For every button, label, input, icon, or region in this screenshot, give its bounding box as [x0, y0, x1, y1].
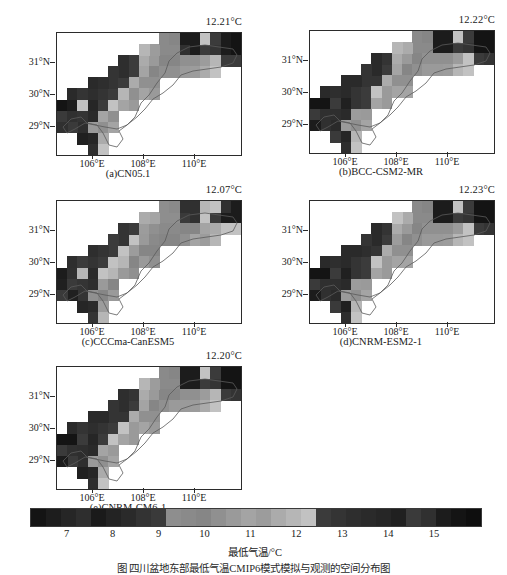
raster-cell [231, 223, 242, 235]
raster-cell [433, 31, 444, 43]
raster-cell [108, 245, 119, 257]
raster-cell [108, 88, 119, 100]
temperature-raster-c [57, 201, 241, 323]
y-axis-label-29N: 29°N [10, 288, 50, 299]
raster-cell [210, 367, 221, 379]
raster-cell [129, 245, 140, 257]
colorbar-tick-9: 9 [156, 528, 161, 539]
colorbar-segment [136, 509, 151, 526]
raster-cell [351, 301, 362, 313]
raster-cell [310, 290, 321, 302]
raster-cell [77, 279, 88, 291]
raster-cell [382, 53, 393, 65]
raster-cell [443, 223, 454, 235]
raster-cell [108, 66, 119, 78]
raster-cell [392, 256, 403, 268]
colorbar-segment [301, 509, 316, 526]
colorbar-axis-title: 最低气温/°C [30, 544, 480, 559]
y-axis-tick [303, 230, 308, 231]
raster-cell [108, 122, 119, 134]
raster-cell [129, 77, 140, 89]
raster-cell [341, 142, 352, 154]
raster-cell [129, 400, 140, 412]
raster-cell [422, 201, 433, 213]
colorbar-segment [286, 509, 301, 526]
panel-caption-a: (a)CN05.1 [8, 168, 248, 179]
raster-cell [402, 223, 413, 235]
raster-cell [351, 109, 362, 121]
raster-cell [77, 133, 88, 145]
raster-cell [98, 111, 109, 123]
y-axis-tick [303, 262, 308, 263]
raster-cell [159, 389, 170, 401]
raster-cell [330, 109, 341, 121]
raster-cell [474, 42, 485, 54]
raster-cell [412, 201, 423, 213]
colorbar-segment [31, 509, 46, 526]
raster-cell [351, 268, 362, 280]
raster-cell [371, 75, 382, 87]
raster-cell [210, 55, 221, 67]
x-axis-tick [345, 322, 346, 327]
raster-cell [320, 290, 331, 302]
raster-cell [433, 234, 444, 246]
raster-cell [221, 212, 232, 224]
raster-cell [351, 279, 362, 291]
raster-cell [392, 212, 403, 224]
raster-cell [463, 212, 474, 224]
raster-cell [149, 389, 160, 401]
raster-cell [77, 111, 88, 123]
raster-cell [210, 66, 221, 78]
x-axis-tick [447, 152, 448, 157]
raster-cell [371, 98, 382, 110]
raster-cell [310, 109, 321, 121]
y-axis-label-29N: 29°N [263, 288, 303, 299]
raster-cell [169, 389, 180, 401]
raster-cell [118, 100, 129, 112]
raster-cell [88, 467, 99, 479]
raster-cell [231, 389, 242, 401]
raster-cell [88, 111, 99, 123]
raster-cell [129, 389, 140, 401]
colorbar-tick-7: 7 [64, 528, 69, 539]
x-axis-tick [396, 322, 397, 327]
raster-cell [88, 77, 99, 89]
raster-cell [149, 223, 160, 235]
raster-cell [330, 301, 341, 313]
raster-cell [98, 301, 109, 313]
raster-cell [169, 201, 180, 213]
map-plot-area-e [56, 366, 242, 490]
x-axis-tick [194, 488, 195, 493]
raster-cell [371, 234, 382, 246]
map-plot-area-d [309, 200, 495, 324]
raster-cell [88, 301, 99, 313]
raster-cell [118, 256, 129, 268]
raster-cell [108, 411, 119, 423]
raster-cell [484, 223, 495, 235]
raster-cell [118, 268, 129, 280]
raster-cell [474, 223, 485, 235]
colorbar-segment [46, 509, 61, 526]
raster-cell [118, 223, 129, 235]
raster-cell [392, 64, 403, 76]
raster-cell [77, 88, 88, 100]
colorbar-segment [316, 509, 331, 526]
colorbar-tick-8: 8 [110, 528, 115, 539]
raster-cell [98, 256, 109, 268]
raster-cell [77, 456, 88, 468]
raster-cell [190, 33, 201, 45]
raster-cell [341, 86, 352, 98]
raster-cell [351, 86, 362, 98]
y-axis-tick [50, 94, 55, 95]
raster-cell [149, 422, 160, 434]
y-axis-label-31N: 31°N [263, 54, 303, 65]
colorbar-tick-11: 11 [245, 528, 255, 539]
map-panel-d: 12.23°C31°N30°N29°N106°E108°E110°E(d)CNR… [261, 184, 501, 359]
temperature-raster-b [310, 31, 494, 153]
colorbar-segment [61, 509, 76, 526]
raster-cell [402, 212, 413, 224]
raster-cell [149, 212, 160, 224]
raster-cell [149, 66, 160, 78]
raster-cell [351, 98, 362, 110]
raster-cell [108, 456, 119, 468]
